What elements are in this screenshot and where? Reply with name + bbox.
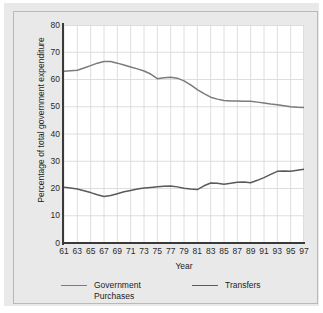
x-axis-ticks: 61636567697173757779818385878991939597 xyxy=(64,246,306,260)
chart-panel: Percentage of total government expenditu… xyxy=(4,3,319,306)
y-axis-ticks: 80706050403020100 xyxy=(36,3,60,313)
y-tick-label: 50 xyxy=(38,102,60,111)
chart-figure: Percentage of total government expenditu… xyxy=(0,0,323,313)
y-tick-label: 10 xyxy=(38,211,60,220)
plot-area xyxy=(64,25,304,243)
y-axis-line xyxy=(62,23,64,245)
x-tick-label: 97 xyxy=(296,246,312,256)
y-tick-label: 60 xyxy=(38,75,60,84)
y-tick-label: 40 xyxy=(38,130,60,139)
gridlines xyxy=(64,25,304,243)
legend-line-icon xyxy=(192,285,218,286)
y-axis-title-container: Percentage of total government expenditu… xyxy=(18,3,32,263)
y-tick-label: 80 xyxy=(38,21,60,30)
plot-svg xyxy=(64,25,304,243)
legend-label: Government Purchases xyxy=(94,280,141,301)
chart-legend: Government PurchasesTransfers xyxy=(44,280,309,306)
legend-entry[interactable]: Transfers xyxy=(192,280,261,291)
legend-line-icon xyxy=(61,285,87,286)
x-axis-line xyxy=(62,242,305,244)
y-tick-label: 70 xyxy=(38,48,60,57)
legend-label: Transfers xyxy=(225,280,261,291)
legend-entry[interactable]: Government Purchases xyxy=(61,280,141,301)
x-axis-title: Year xyxy=(64,261,304,271)
y-tick-label: 20 xyxy=(38,184,60,193)
y-tick-label: 30 xyxy=(38,157,60,166)
